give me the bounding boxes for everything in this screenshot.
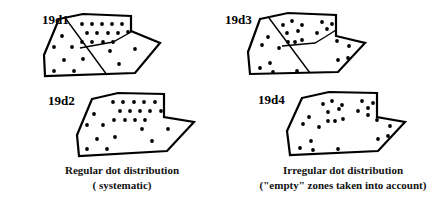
dot-marker (123, 118, 127, 122)
panel-label: 19d2 (48, 93, 75, 108)
dot-marker (366, 106, 370, 110)
dot-marker (70, 45, 74, 49)
dot-marker (307, 115, 311, 119)
dot-marker (140, 127, 144, 131)
dot-marker (52, 69, 56, 73)
dot-marker (111, 40, 115, 44)
dot-marker (100, 22, 104, 26)
dot-marker (340, 103, 344, 107)
dot-marker (95, 137, 99, 141)
dot-marker (388, 124, 392, 128)
dot-marker (106, 31, 110, 35)
dot-marker (166, 127, 170, 131)
dot-marker (376, 137, 380, 141)
dot-marker (326, 119, 330, 123)
dot-marker (386, 134, 390, 138)
caption-left-line1: Regular dot distribution (65, 164, 179, 176)
dot-marker (326, 110, 330, 114)
panel-19d4: 19d4 (258, 92, 405, 155)
dot-marker (336, 58, 340, 62)
zone-dividers (66, 19, 131, 75)
dot-marker (300, 23, 304, 27)
dot-marker (341, 117, 345, 121)
dot-marker (90, 40, 94, 44)
panel-19d1: 19d1 (42, 12, 160, 76)
dot-marker (72, 69, 76, 73)
dot-marker (150, 139, 154, 143)
dot-group (85, 100, 170, 151)
dot-marker (85, 31, 89, 35)
dot-marker (120, 22, 124, 26)
dot-marker (80, 40, 84, 44)
dot-marker (108, 49, 112, 53)
dot-marker (116, 31, 120, 35)
caption-left-line2: ( systematic) (93, 179, 152, 192)
dot-marker (325, 27, 329, 31)
dot-marker (300, 38, 304, 42)
dot-marker (258, 66, 262, 70)
dot-marker (159, 109, 163, 113)
dot-marker (105, 147, 109, 151)
dot-marker (101, 123, 105, 127)
dot-marker (112, 118, 116, 122)
caption-right-line2: ("empty" zones taken into account) (260, 179, 427, 192)
dot-marker (271, 70, 275, 74)
dot-marker (133, 118, 137, 122)
panel-label: 19d3 (225, 12, 252, 27)
dot-marker (286, 40, 290, 44)
dot-marker (375, 118, 379, 122)
dot-marker (133, 47, 137, 51)
dot-marker (113, 135, 117, 139)
dot-marker (85, 147, 89, 151)
dot-marker (317, 125, 321, 129)
panel-label: 19d4 (258, 92, 285, 107)
dot-marker (360, 99, 364, 103)
dot-marker (142, 100, 146, 104)
dot-marker (101, 40, 105, 44)
dot-marker (85, 123, 89, 127)
dot-marker (60, 34, 64, 38)
panel-label: 19d1 (42, 12, 69, 27)
dot-marker (148, 109, 152, 113)
dot-marker (92, 112, 96, 116)
dot-marker (336, 147, 340, 151)
dot-marker (81, 57, 85, 61)
dot-marker (111, 100, 115, 104)
dot-marker (285, 31, 289, 35)
dot-marker (330, 99, 334, 103)
dot-marker (121, 100, 125, 104)
dot-marker (296, 29, 300, 33)
dot-marker (320, 20, 324, 24)
panel-19d2: 19d2 (48, 93, 194, 156)
dot-group (52, 22, 137, 73)
dot-marker (346, 56, 350, 60)
dot-marker (333, 119, 337, 123)
dot-marker (268, 61, 272, 65)
dot-marker (128, 109, 132, 113)
dot-marker (309, 139, 313, 143)
dot-marker (347, 44, 351, 48)
dot-marker (356, 109, 360, 113)
dot-marker (311, 148, 315, 152)
dot-marker (321, 102, 325, 106)
dot-marker (366, 113, 370, 117)
dot-marker (315, 31, 319, 35)
caption-right-line1: Irregular dot distribution (283, 164, 403, 176)
dot-marker (290, 19, 294, 23)
dot-marker (295, 69, 299, 73)
dot-marker (266, 35, 270, 39)
dot-marker (52, 45, 56, 49)
dot-marker (138, 109, 142, 113)
dot-marker (143, 118, 147, 122)
dot-marker (110, 22, 114, 26)
dot-marker (80, 22, 84, 26)
dot-marker (260, 43, 264, 47)
dot-marker (298, 146, 302, 150)
dot-marker (153, 100, 157, 104)
dot-marker (293, 40, 297, 44)
dot-marker (126, 30, 130, 34)
dot-marker (117, 62, 121, 66)
dot-marker (330, 22, 334, 26)
dot-marker (95, 31, 99, 35)
dot-distribution-diagram: 19d1 19d2 19d3 19d4 Regular dot distribu… (0, 0, 442, 202)
